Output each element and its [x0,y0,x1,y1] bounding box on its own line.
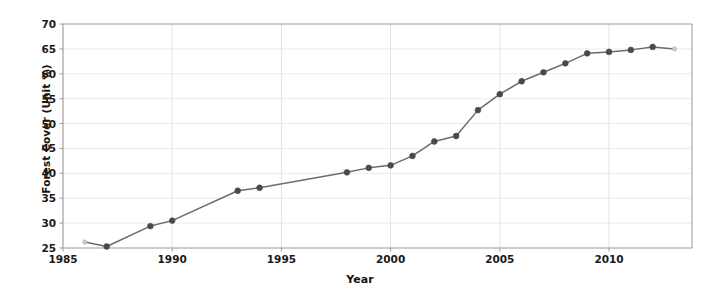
data-point-marker [475,107,481,113]
data-point-marker [584,50,590,56]
data-point-marker [147,223,153,229]
data-point-marker [431,139,437,145]
data-point-marker [104,244,110,250]
data-point-marker [606,49,612,55]
data-point-marker [410,153,416,159]
series-line [85,47,675,247]
data-point-marker [83,240,87,244]
data-point-marker [628,47,634,53]
data-point-marker [650,44,656,50]
x-tick-label: 1995 [251,254,311,265]
data-point-marker [672,47,676,51]
x-axis-title: Year [0,273,720,286]
axis-tickmarks [60,24,610,252]
forest-cover-line-chart: 70656055504540353025 1985199019952000200… [0,0,720,295]
data-point-marker [519,78,525,84]
plot-canvas [0,0,720,295]
data-point-marker [388,162,394,168]
data-point-marker [169,218,175,224]
data-line-series [85,47,675,247]
data-point-marker [366,165,372,171]
data-point-marker [453,133,459,139]
data-point-marker [497,91,503,97]
data-point-marker [257,185,263,191]
x-tick-label: 1990 [142,254,202,265]
y-axis-title: Forest Cover (Unit %) [40,9,52,249]
gridlines [63,24,692,248]
x-tick-label: 2010 [579,254,639,265]
data-point-marker [344,169,350,175]
axis-spines [63,24,692,248]
data-point-marker [235,188,241,194]
data-point-marker [562,60,568,66]
x-axis-tick-labels: 198519901995200020052010 [0,254,720,272]
x-tick-label: 2000 [361,254,421,265]
x-tick-label: 2005 [470,254,530,265]
data-point-marker [541,69,547,75]
x-tick-label: 1985 [33,254,93,265]
y-axis-title-wrapper: Forest Cover (Unit %) [40,9,60,249]
